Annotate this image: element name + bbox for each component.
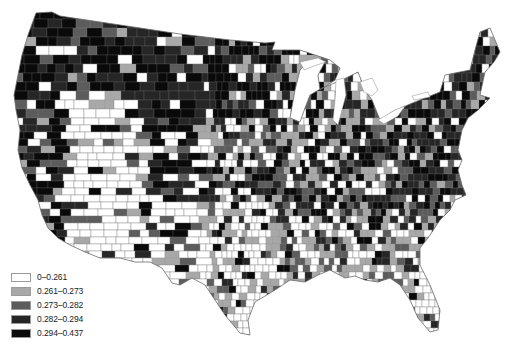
legend-swatch xyxy=(11,315,31,324)
legend-item: 0–0.261 xyxy=(11,270,83,284)
legend-item: 0.273–0.282 xyxy=(11,298,83,312)
legend-swatch xyxy=(11,287,31,296)
county-cells xyxy=(12,10,512,342)
legend-label: 0.294–0.437 xyxy=(37,328,83,338)
legend-swatch xyxy=(11,301,31,310)
legend-item: 0.282–0.294 xyxy=(11,312,83,326)
legend-label: 0.261–0.273 xyxy=(37,286,83,296)
legend-item: 0.261–0.273 xyxy=(11,284,83,298)
legend-label: 0.282–0.294 xyxy=(37,314,83,324)
legend: 0–0.261 0.261–0.273 0.273–0.282 0.282–0.… xyxy=(11,270,83,340)
legend-label: 0.273–0.282 xyxy=(37,300,83,310)
legend-swatch xyxy=(11,329,31,338)
legend-swatch xyxy=(11,273,31,282)
legend-item: 0.294–0.437 xyxy=(11,326,83,340)
legend-label: 0–0.261 xyxy=(37,272,67,282)
